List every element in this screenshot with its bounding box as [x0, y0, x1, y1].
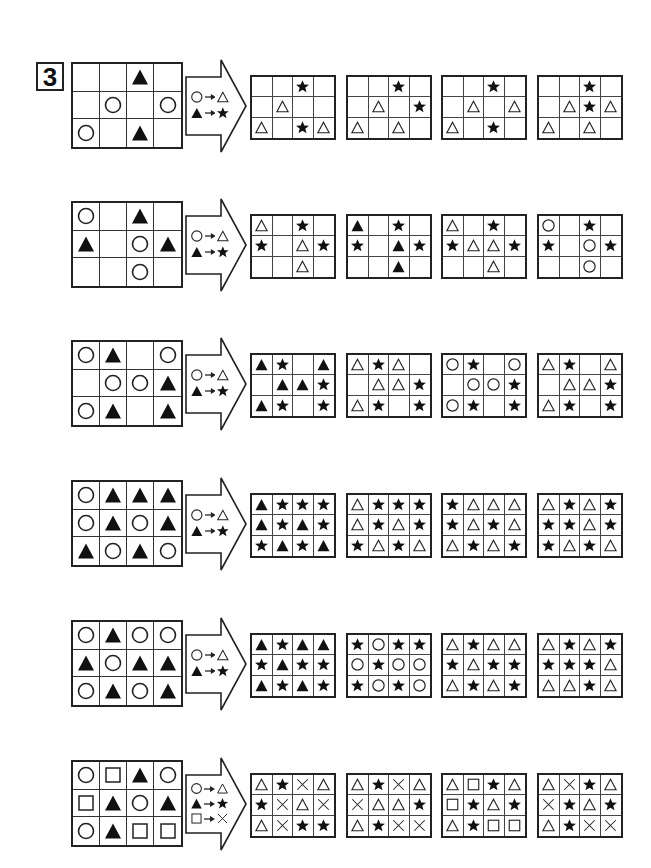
legend-rule — [190, 647, 230, 663]
star-icon — [295, 497, 310, 512]
answer-option-2[interactable] — [346, 353, 432, 418]
answer-option-1[interactable] — [250, 773, 336, 838]
filled-triangle-icon — [158, 234, 178, 254]
grid-cell — [73, 258, 100, 286]
open-triangle-icon — [466, 657, 481, 672]
answer-option-4[interactable] — [537, 633, 623, 698]
star-icon — [391, 637, 406, 652]
filled-triangle-icon — [350, 218, 365, 233]
answer-option-4[interactable] — [537, 493, 623, 558]
open-triangle-icon — [391, 517, 406, 532]
star-icon — [486, 517, 501, 532]
grid-cell — [484, 775, 505, 795]
answer-option-3[interactable] — [441, 493, 527, 558]
grid-cell — [100, 92, 127, 120]
square-icon — [130, 821, 150, 841]
answer-option-3[interactable] — [441, 353, 527, 418]
grid-cell — [484, 97, 505, 117]
grid-cell — [443, 236, 464, 256]
grid-cell — [389, 257, 410, 277]
grid-cell — [369, 816, 390, 836]
star-icon — [275, 777, 290, 792]
grid-cell — [443, 795, 464, 815]
grid-cell — [410, 536, 431, 556]
grid-cell — [484, 515, 505, 535]
star-icon — [412, 377, 427, 392]
grid-cell — [389, 77, 410, 97]
filled-triangle-icon — [316, 357, 331, 372]
grid-cell — [539, 77, 560, 97]
star-icon — [466, 678, 481, 693]
star-icon — [275, 637, 290, 652]
answer-option-4[interactable] — [537, 773, 623, 838]
answer-option-1[interactable] — [250, 214, 336, 279]
star-icon — [216, 524, 230, 538]
star-icon — [507, 538, 522, 553]
answer-option-1[interactable] — [250, 353, 336, 418]
grid-cell — [601, 775, 622, 795]
answer-option-2[interactable] — [346, 493, 432, 558]
answer-option-3[interactable] — [441, 75, 527, 140]
grid-cell — [127, 397, 154, 425]
answer-option-2[interactable] — [346, 214, 432, 279]
grid-cell — [389, 816, 410, 836]
grid-cell — [293, 396, 314, 416]
grid-cell — [464, 795, 485, 815]
star-icon — [603, 517, 618, 532]
grid-cell — [100, 790, 127, 818]
grid-cell — [505, 635, 526, 655]
legend-rule — [190, 796, 230, 811]
open-triangle-icon — [603, 678, 618, 693]
grid-cell — [580, 795, 601, 815]
star-icon — [486, 120, 501, 135]
grid-cell — [560, 536, 581, 556]
open-triangle-icon — [603, 657, 618, 672]
star-icon — [412, 797, 427, 812]
answer-option-2[interactable] — [346, 75, 432, 140]
grid-cell — [560, 236, 581, 256]
grid-cell — [580, 118, 601, 138]
grid-cell — [560, 97, 581, 117]
grid-cell — [601, 536, 622, 556]
answer-option-3[interactable] — [441, 633, 527, 698]
answer-option-1[interactable] — [250, 75, 336, 140]
star-icon — [466, 797, 481, 812]
grid-cell — [100, 397, 127, 425]
square-icon — [445, 797, 460, 812]
legend-rule — [190, 105, 230, 121]
answer-option-4[interactable] — [537, 214, 623, 279]
circle-icon — [190, 508, 204, 522]
grid-cell — [389, 97, 410, 117]
filled-triangle-icon — [275, 538, 290, 553]
answer-option-2[interactable] — [346, 773, 432, 838]
grid-cell — [505, 97, 526, 117]
star-icon — [391, 678, 406, 693]
puzzle-row — [0, 340, 651, 440]
filled-triangle-icon — [158, 513, 178, 533]
grid-cell — [539, 118, 560, 138]
square-icon — [158, 821, 178, 841]
grid-cell — [601, 676, 622, 696]
grid-cell — [369, 536, 390, 556]
answer-option-4[interactable] — [537, 353, 623, 418]
grid-cell — [560, 375, 581, 395]
star-icon — [582, 538, 597, 553]
grid-cell — [154, 397, 181, 425]
grid-cell — [314, 515, 335, 535]
answer-option-3[interactable] — [441, 214, 527, 279]
answer-option-2[interactable] — [346, 633, 432, 698]
star-icon — [316, 678, 331, 693]
grid-cell — [252, 495, 273, 515]
answer-option-4[interactable] — [537, 75, 623, 140]
grid-cell — [539, 396, 560, 416]
square-icon — [76, 793, 96, 813]
answer-option-3[interactable] — [441, 773, 527, 838]
grid-cell — [314, 375, 335, 395]
star-icon — [603, 797, 618, 812]
grid-cell — [560, 355, 581, 375]
legend-rule — [190, 89, 230, 105]
grid-cell — [369, 795, 390, 815]
answer-option-1[interactable] — [250, 633, 336, 698]
grid-cell — [154, 677, 181, 705]
answer-option-1[interactable] — [250, 493, 336, 558]
